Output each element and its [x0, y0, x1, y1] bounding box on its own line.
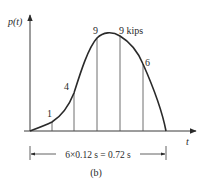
ordinate-label-5: 6 [145, 57, 150, 68]
dimension-label: 6×0.12 s = 0.72 s [65, 150, 131, 160]
ordinate-label-1: 1 [47, 108, 52, 119]
ordinate-label-3: 9 [93, 25, 98, 36]
ordinate-label-2: 4 [64, 81, 69, 92]
figure-caption: (b) [90, 167, 102, 179]
ordinate-label-4: 9 kips [119, 25, 143, 36]
x-axis-label: t [186, 136, 189, 147]
y-axis-label: p(t) [7, 16, 23, 28]
load-history-diagram: 1 4 9 9 kips 6 p(t) t 6×0.12 s = 0.72 s … [0, 0, 202, 182]
